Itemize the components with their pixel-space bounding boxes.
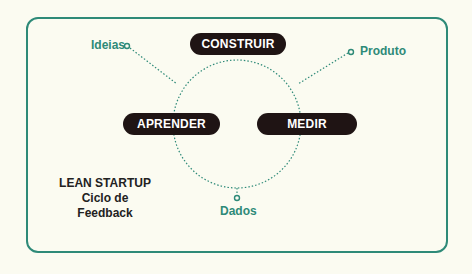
diagram-title: LEAN STARTUP Ciclo de Feedback — [55, 176, 155, 221]
subtitle-line: Ciclo de Feedback — [55, 191, 155, 221]
output-ideias: Ideias — [91, 38, 125, 52]
ideias-node-icon — [125, 44, 130, 49]
dados-node-icon — [235, 196, 240, 201]
output-dados: Dados — [220, 204, 254, 218]
stage-construir: CONSTRUIR — [190, 33, 286, 55]
ideias-connector — [130, 48, 177, 84]
title-line: LEAN STARTUP — [55, 176, 155, 191]
produto-connector — [298, 53, 348, 84]
stage-aprender: APRENDER — [123, 113, 220, 135]
stage-medir: MEDIR — [257, 113, 357, 135]
produto-node-icon — [349, 50, 354, 55]
output-produto: Produto — [360, 44, 406, 58]
